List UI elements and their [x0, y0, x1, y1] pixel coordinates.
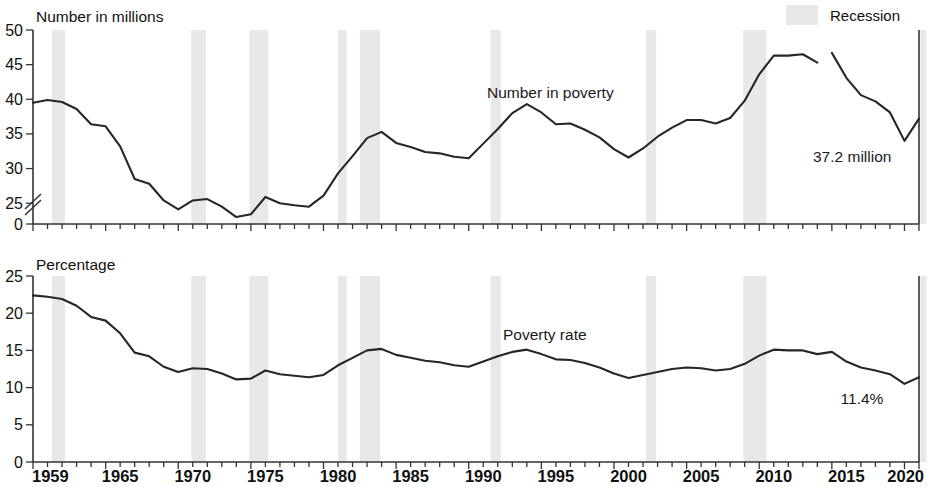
x-tick-label: 2015	[828, 467, 865, 485]
chart-canvas: Number in millions 0253035404550 Number …	[0, 0, 933, 487]
recession-band	[249, 276, 268, 462]
recession-band	[191, 30, 206, 224]
x-tick-label: 1959	[32, 467, 69, 485]
recession-band	[52, 30, 65, 224]
x-tick-label: 1985	[392, 467, 429, 485]
x-axis-tick-labels: 1959196519701975198019851990199520002005…	[32, 467, 924, 485]
number-in-poverty-line-seg2	[832, 53, 919, 141]
y-tick-label: 35	[5, 125, 23, 142]
recession-bands-bottom	[52, 276, 927, 462]
y-tick-label: 45	[5, 56, 23, 73]
y-tick-label: 30	[5, 160, 23, 177]
y-tick-label: 0	[14, 454, 23, 471]
x-tick-label: 1990	[465, 467, 502, 485]
recession-band	[743, 30, 766, 224]
top-x-tick-marks	[33, 224, 919, 231]
top-panel: Number in millions 0253035404550 Number …	[5, 8, 919, 233]
x-tick-label: 1965	[102, 467, 139, 485]
recession-bands-top	[52, 30, 927, 224]
recession-band	[646, 30, 656, 224]
recession-band	[491, 276, 501, 462]
x-tick-label: 2010	[755, 467, 792, 485]
x-tick-label: 1995	[538, 467, 575, 485]
bottom-end-annotation: 11.4%	[841, 390, 884, 407]
y-tick-label: 50	[5, 22, 23, 39]
recession-legend-swatch	[786, 5, 818, 25]
recession-band	[338, 30, 347, 224]
y-tick-label: 0	[14, 216, 23, 233]
recession-band	[338, 276, 347, 462]
top-y-tick-labels: 0253035404550	[5, 22, 23, 233]
recession-legend-label: Recession	[830, 7, 900, 24]
x-tick-label: 1980	[320, 467, 357, 485]
bottom-axis-label: Percentage	[36, 256, 115, 273]
bottom-y-tick-labels: 0510152025	[5, 268, 23, 471]
bottom-series-label: Poverty rate	[503, 326, 587, 343]
recession-band	[646, 276, 656, 462]
recession-band	[743, 276, 766, 462]
legend: Recession	[786, 5, 900, 25]
top-end-annotation: 37.2 million	[813, 148, 891, 165]
y-tick-label: 5	[14, 416, 23, 433]
y-tick-label: 25	[5, 268, 23, 285]
y-tick-label: 10	[5, 379, 23, 396]
poverty-rate-line	[33, 295, 919, 384]
y-tick-label: 20	[5, 305, 23, 322]
x-tick-label: 1975	[247, 467, 284, 485]
bottom-y-tick-marks	[26, 276, 33, 462]
y-tick-label: 15	[5, 342, 23, 359]
y-tick-label: 25	[5, 195, 23, 212]
y-tick-label: 40	[5, 91, 23, 108]
top-y-tick-marks	[26, 30, 33, 224]
x-tick-label: 2000	[610, 467, 647, 485]
recession-band	[920, 276, 926, 462]
x-tick-label: 1970	[174, 467, 211, 485]
recession-band	[52, 276, 65, 462]
top-axis-label: Number in millions	[36, 8, 164, 25]
recession-band	[360, 276, 380, 462]
bottom-panel: Percentage 0510152025 Poverty rate 11.4%…	[5, 256, 924, 485]
x-tick-label: 2020	[887, 467, 924, 485]
poverty-chart-figure: Number in millions 0253035404550 Number …	[0, 0, 933, 487]
number-in-poverty-line	[33, 54, 817, 217]
top-series-label: Number in poverty	[487, 84, 614, 101]
recession-band	[920, 30, 926, 224]
x-tick-label: 2005	[683, 467, 720, 485]
recession-band	[360, 30, 380, 224]
recession-band	[249, 30, 268, 224]
